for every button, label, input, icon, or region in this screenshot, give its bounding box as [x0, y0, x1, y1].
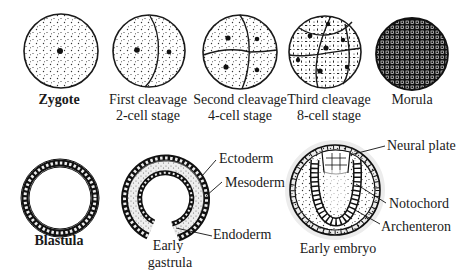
- archenteron-label: Archenteron: [381, 219, 451, 234]
- mesoderm-label: Mesoderm: [225, 175, 285, 190]
- early-embryo-label: Early embryo: [300, 241, 377, 256]
- nucleus-icon: [134, 47, 140, 53]
- third-cleavage-label: Third cleavage: [287, 92, 371, 107]
- second-cleavage-stage: Second cleavage 4-cell stage: [193, 15, 287, 123]
- ectoderm-label: Ectoderm: [219, 151, 274, 166]
- nucleus-icon: [57, 48, 63, 54]
- zygote-label: Zygote: [38, 92, 79, 107]
- morula-label: Morula: [391, 92, 433, 107]
- two-cell-embryo: [113, 15, 185, 87]
- eight-cell-embryo: [289, 16, 361, 88]
- first-cleavage-stage: First cleavage 2-cell stage: [109, 15, 187, 123]
- ectoderm-pointer: [202, 160, 216, 176]
- early-embryo-stage: Neural plate Notochord Archenteron Early…: [290, 138, 456, 256]
- third-cleavage-stage: Third cleavage 8-cell stage: [287, 16, 371, 123]
- blastula-stage: Blastula: [21, 159, 99, 248]
- embryo-development-diagram: Zygote First cleavage 2-cell stage Secon…: [0, 0, 466, 275]
- first-cleavage-label: First cleavage: [109, 92, 187, 107]
- eight-cell-stage-label: 8-cell stage: [297, 108, 361, 123]
- endoderm-layer: [140, 173, 192, 224]
- second-cleavage-label: Second cleavage: [193, 92, 287, 107]
- neural-plate-label: Neural plate: [387, 138, 456, 153]
- morula-stage: Morula: [376, 18, 448, 107]
- four-cell-stage-label: 4-cell stage: [208, 108, 272, 123]
- early-gastrula-stage: Ectoderm Mesoderm Endoderm Early gastrul…: [125, 151, 285, 270]
- endoderm-label: Endoderm: [213, 227, 271, 242]
- zygote-stage: Zygote: [24, 14, 98, 107]
- blastula-label: Blastula: [34, 233, 83, 248]
- two-cell-stage-label: 2-cell stage: [116, 108, 180, 123]
- notochord-label: Notochord: [389, 196, 449, 211]
- morula-cell-cluster: [376, 18, 448, 90]
- gastrula-label-line2: gastrula: [148, 255, 193, 270]
- gastrula-label-line1: Early: [153, 238, 183, 253]
- nucleus-icon: [167, 50, 172, 55]
